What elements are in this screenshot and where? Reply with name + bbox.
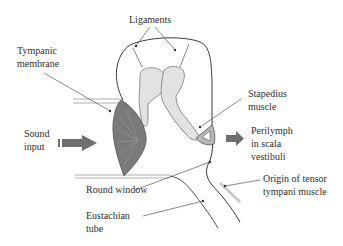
label-stapedius-line1: Stapedius (248, 88, 287, 100)
label-perilymph-line1: Perilymph (251, 125, 293, 137)
label-sound-line2: input (24, 141, 45, 153)
label-ligaments: Ligaments (129, 14, 171, 26)
incus (161, 66, 200, 140)
perilymph-arrow-icon (226, 131, 244, 146)
label-sound-line1: Sound (24, 128, 50, 140)
label-stapedius-line2: muscle (248, 101, 276, 113)
label-tensor-line1: Origin of tensor (263, 173, 327, 185)
ear-canal-bottom-lines (75, 175, 170, 178)
label-tympanic-line2: membrane (17, 58, 59, 70)
label-perilymph-line3: vestibuli (251, 151, 285, 163)
ligament-lines (133, 44, 189, 67)
label-eustachian-line1: Eustachian (86, 210, 130, 222)
ear-canal-top-lines (73, 99, 123, 103)
label-tensor-line2: tympani muscle (263, 186, 327, 198)
label-round-window: Round window (86, 184, 147, 196)
leader-lines (44, 27, 260, 216)
sound-input-arrow-icon (58, 135, 97, 151)
label-perilymph-line2: in scala (251, 138, 281, 150)
tensor-tympani-strip (220, 183, 240, 202)
diagram-drawing (0, 0, 343, 246)
label-tympanic-line1: Tympanic (17, 45, 57, 57)
middle-ear-diagram: Ligaments Tympanic membrane Sound input … (0, 0, 343, 246)
label-eustachian-line2: tube (86, 223, 103, 235)
